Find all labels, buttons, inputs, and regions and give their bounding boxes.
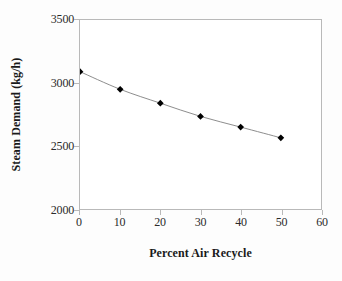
plot-area: 0, 309010, 295020, 284030, 273540, 26505… bbox=[79, 19, 322, 210]
data-point-marker: 50, 2565 bbox=[277, 134, 284, 141]
x-axis-tick-label: 50 bbox=[262, 216, 302, 228]
data-point-marker: 0, 3090 bbox=[80, 68, 83, 75]
y-axis-title: Steam Demand (kg/h) bbox=[9, 15, 24, 215]
x-axis-tick-label: 10 bbox=[100, 216, 140, 228]
y-axis-tick-label: 2500 bbox=[30, 140, 74, 152]
y-axis-tick-mark bbox=[74, 146, 79, 147]
data-point-marker: 20, 2840 bbox=[157, 100, 164, 107]
x-axis-tick-mark bbox=[120, 210, 121, 215]
x-axis-tick-mark bbox=[322, 210, 323, 215]
x-axis-tick-labels: 0102030405060 bbox=[0, 216, 342, 232]
y-axis-tick-labels: 2000250030003500 bbox=[26, 0, 74, 281]
x-axis-tick-mark bbox=[241, 210, 242, 215]
y-axis-tick-label: 3500 bbox=[30, 13, 74, 25]
chart-plot-svg: 0, 309010, 295020, 284030, 273540, 26505… bbox=[80, 20, 321, 209]
data-point-marker: 10, 2950 bbox=[117, 86, 124, 93]
x-axis-tick-label: 60 bbox=[302, 216, 342, 228]
x-axis-tick-mark bbox=[282, 210, 283, 215]
x-axis-tick-mark bbox=[79, 210, 80, 215]
x-axis-tick-mark bbox=[160, 210, 161, 215]
data-point-marker: 40, 2650 bbox=[237, 124, 244, 131]
series-line bbox=[80, 72, 281, 138]
y-axis-tick-mark bbox=[74, 19, 79, 20]
data-point-marker: 30, 2735 bbox=[197, 113, 204, 120]
x-axis-tick-label: 0 bbox=[59, 216, 99, 228]
y-axis-tick-label: 2000 bbox=[30, 204, 74, 216]
data-series-steam-demand: 0, 309010, 295020, 284030, 273540, 26505… bbox=[80, 68, 284, 141]
y-axis-tick-mark bbox=[74, 83, 79, 84]
chart-screenshot: 0, 309010, 295020, 284030, 273540, 26505… bbox=[0, 0, 342, 281]
x-axis-tick-label: 30 bbox=[181, 216, 221, 228]
x-axis-tick-label: 40 bbox=[221, 216, 261, 228]
x-axis-tick-label: 20 bbox=[140, 216, 180, 228]
y-axis-tick-label: 3000 bbox=[30, 77, 74, 89]
x-axis-title: Percent Air Recycle bbox=[79, 246, 322, 261]
x-axis-tick-mark bbox=[201, 210, 202, 215]
